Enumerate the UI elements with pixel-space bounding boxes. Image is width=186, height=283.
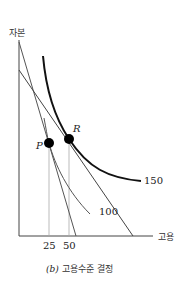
- x-tick-25: 25: [43, 240, 56, 251]
- point-r: [64, 134, 74, 144]
- x-tick-50: 50: [63, 240, 76, 251]
- x-axis-label: 고용: [158, 230, 174, 243]
- isoquant-100-label: 100: [99, 206, 118, 217]
- point-p: [44, 138, 54, 148]
- point-r-label: R: [73, 123, 81, 134]
- point-p-label: P: [36, 140, 43, 151]
- caption-prefix: (b): [46, 264, 59, 274]
- isoquant-150-curve: [43, 56, 141, 181]
- caption-text: 고용수준 결정: [62, 264, 113, 274]
- isoquant-150-label: 150: [144, 175, 163, 186]
- y-axis-label: 자본: [9, 26, 25, 39]
- figure-caption: (b) 고용수준 결정: [46, 262, 113, 275]
- isoquant-100-curve: [44, 118, 90, 214]
